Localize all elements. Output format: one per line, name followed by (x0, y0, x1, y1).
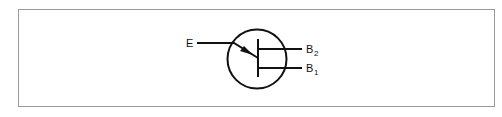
base2-label: B (306, 43, 313, 55)
base1-label: B (306, 62, 313, 74)
ujt-symbol: E B 2 B 1 (0, 0, 502, 117)
emitter-label: E (186, 37, 193, 49)
base2-subscript: 2 (314, 49, 319, 58)
base1-subscript: 1 (314, 68, 319, 77)
